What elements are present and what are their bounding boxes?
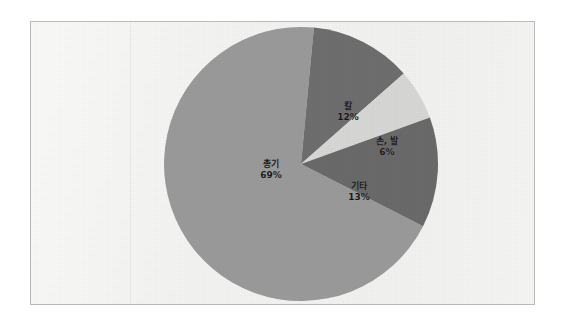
pie-label-kal-name: 칼 [337,101,359,112]
scanned-page: 총기 69% 칼 12% 손, 발 6% 기타 13% [0,0,562,323]
pie-label-chongi-value: 69% [260,170,282,181]
pie-chart-plot-area: 총기 69% 칼 12% 손, 발 6% 기타 13% [31,22,535,305]
pie-label-kal: 칼 12% [337,101,359,123]
pie-label-sonbal: 손, 발 6% [376,136,399,158]
pie-label-gita-name: 기타 [348,181,370,192]
pie-label-sonbal-value: 6% [376,147,399,158]
pie-label-kal-value: 12% [337,112,359,123]
figure-frame: 총기 69% 칼 12% 손, 발 6% 기타 13% [30,21,535,305]
pie-label-chongi-name: 총기 [260,159,282,170]
pie-chart-svg [31,22,535,305]
pie-label-sonbal-name: 손, 발 [376,136,399,147]
pie-label-gita-value: 13% [348,192,370,203]
pie-label-gita: 기타 13% [348,181,370,203]
pie-label-chongi: 총기 69% [260,159,282,181]
